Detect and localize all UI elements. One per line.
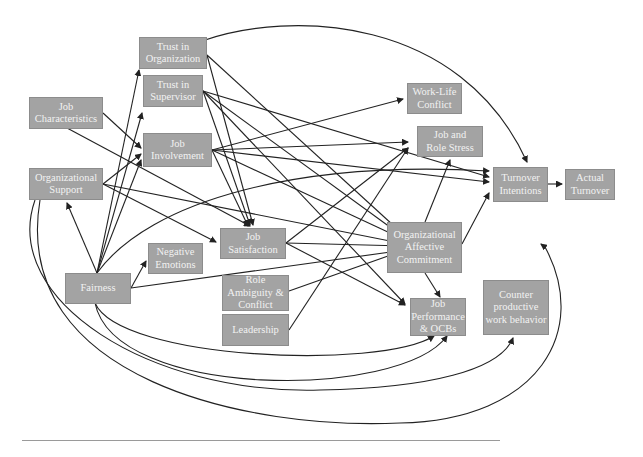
node-work-life: Work-Life Conflict: [407, 83, 462, 114]
edge-arrow: [203, 91, 405, 238]
edge-arrow: [97, 70, 139, 273]
edge-group: [30, 26, 562, 424]
bottom-rule: [22, 440, 500, 441]
node-leadership: Leadership: [222, 314, 289, 346]
node-role-amb: Role Ambiguity & Conflict: [222, 275, 289, 311]
node-turn-int: Turnover Intentions: [493, 167, 548, 202]
edge-arrow: [425, 273, 440, 297]
node-job-inv: Job Involvement: [143, 133, 212, 167]
edge-arrow: [212, 150, 405, 240]
node-fairness: Fairness: [65, 273, 131, 304]
node-role-stress: Job and Role Stress: [417, 126, 483, 157]
edge-arrow: [462, 193, 489, 244]
edge-arrow: [203, 91, 405, 304]
node-cwb: Counter productive work behavior: [483, 280, 549, 335]
edge-arrow: [97, 160, 141, 273]
node-oac: Organizational Affective Commitment: [387, 222, 462, 273]
edge-arrow: [67, 203, 97, 273]
node-neg-emo: Negative Emotions: [148, 243, 203, 274]
node-org-sup: Organizational Support: [29, 168, 103, 200]
node-trust-org: Trust in Organization: [139, 37, 207, 69]
edge-arrow: [207, 55, 253, 225]
node-actual-turn: Actual Turnover: [565, 169, 615, 200]
path-diagram-canvas: [0, 0, 643, 457]
node-job-perf: Job Performance & OCBs: [410, 298, 466, 336]
node-job-sat: Job Satisfaction: [220, 228, 286, 259]
edge-arrow: [103, 154, 141, 184]
node-job-char: Job Characteristics: [29, 97, 103, 129]
edge-arrow: [207, 55, 405, 236]
edge-arrow: [131, 261, 146, 288]
edge-arrow: [103, 113, 141, 148]
node-trust-sup: Trust in Supervisor: [143, 75, 203, 107]
